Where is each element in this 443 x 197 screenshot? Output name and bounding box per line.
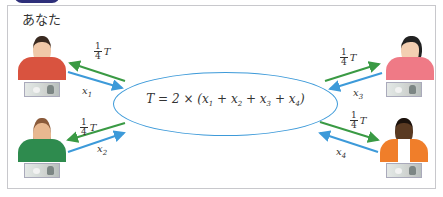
share-label-1: 14T: [94, 42, 110, 61]
formula: T = 2 × (x1 + x2 + x3 + x4): [113, 92, 338, 108]
contribution-label-3: x3: [353, 87, 363, 101]
share-label-2: 14T: [80, 118, 96, 137]
contribution-label-2: x2: [97, 143, 107, 157]
share-label-3: 14T: [340, 48, 356, 67]
contribution-label-4: x4: [336, 146, 346, 160]
contribution-label-1: x1: [82, 85, 92, 99]
share-label-4: 14T: [350, 111, 366, 130]
